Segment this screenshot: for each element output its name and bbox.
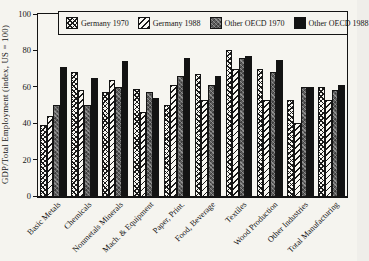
y-tick-label: 60 [23, 83, 32, 91]
x-category-label: Chemicals [63, 200, 94, 231]
bar [257, 69, 264, 196]
bar [146, 92, 153, 196]
bar [102, 92, 109, 196]
legend-item: Germany 1988 [138, 17, 201, 29]
legend: Germany 1970Germany 1988Other OECD 1970O… [58, 11, 348, 35]
y-tick-label: 40 [23, 119, 32, 127]
legend-item: Other OECD 1970 [210, 17, 285, 29]
bar [184, 58, 191, 196]
bar [325, 100, 332, 196]
bar [133, 89, 140, 196]
bar [78, 90, 85, 196]
bar [40, 125, 47, 196]
bar [338, 85, 345, 196]
bar [164, 105, 171, 196]
y-tick-label: 0 [27, 192, 31, 200]
bar [270, 72, 277, 196]
bar [84, 105, 91, 196]
x-category-label: Basic Metals [26, 200, 63, 237]
bar-group [131, 14, 162, 196]
legend-swatch [294, 17, 306, 29]
legend-item: Germany 1970 [66, 17, 129, 29]
bar-group [100, 14, 131, 196]
y-tick-label: 20 [23, 156, 32, 164]
bar [226, 50, 233, 196]
bar [47, 116, 54, 196]
bar [301, 87, 308, 196]
bar [307, 87, 314, 196]
bar-group [38, 14, 69, 196]
bar [201, 100, 208, 196]
bar [170, 85, 177, 196]
bar [71, 72, 78, 196]
y-tick-label: 80 [23, 46, 32, 54]
bar [195, 74, 202, 196]
bar [60, 67, 67, 196]
x-axis-labels: Basic MetalsChemicalsNonmetals MineralsM… [37, 197, 346, 261]
legend-swatch [138, 17, 150, 29]
y-tick [33, 86, 38, 87]
bar-group [316, 14, 347, 196]
bar [287, 100, 294, 196]
bar-group [223, 14, 254, 196]
bar [140, 112, 147, 196]
bar [53, 105, 60, 196]
bar [215, 76, 222, 196]
plot-area: Germany 1970Germany 1988Other OECD 1970O… [37, 13, 348, 198]
y-tick-label: 100 [18, 10, 31, 18]
y-tick [33, 14, 38, 15]
bar-group [69, 14, 100, 196]
bar-group [193, 14, 224, 196]
bar [208, 85, 215, 196]
y-tick [33, 123, 38, 124]
bar [91, 78, 98, 196]
legend-label: Germany 1970 [81, 19, 129, 28]
bar [245, 56, 252, 196]
legend-label: Other OECD 1970 [225, 19, 285, 28]
y-axis-title: GDP/Total Employment (index, US = 100) [0, 13, 13, 195]
bar [115, 87, 122, 196]
bar [153, 98, 160, 196]
bar [263, 100, 270, 196]
bar-group [285, 14, 316, 196]
legend-swatch [66, 17, 78, 29]
bar [332, 90, 339, 196]
bar-group [162, 14, 193, 196]
bar [232, 69, 239, 196]
bar [294, 123, 301, 196]
y-tick [33, 159, 38, 160]
y-tick [33, 50, 38, 51]
bar [122, 61, 129, 196]
bar [318, 87, 325, 196]
x-category-label: Textiles [223, 200, 248, 225]
legend-label: Other OECD 1988 [309, 19, 369, 28]
bar [239, 58, 246, 196]
bar [109, 80, 116, 196]
legend-swatch [210, 17, 222, 29]
legend-item: Other OECD 1988 [294, 17, 369, 29]
bar [276, 60, 283, 197]
bar [177, 76, 184, 196]
legend-label: Germany 1988 [153, 19, 201, 28]
bar-group [254, 14, 285, 196]
